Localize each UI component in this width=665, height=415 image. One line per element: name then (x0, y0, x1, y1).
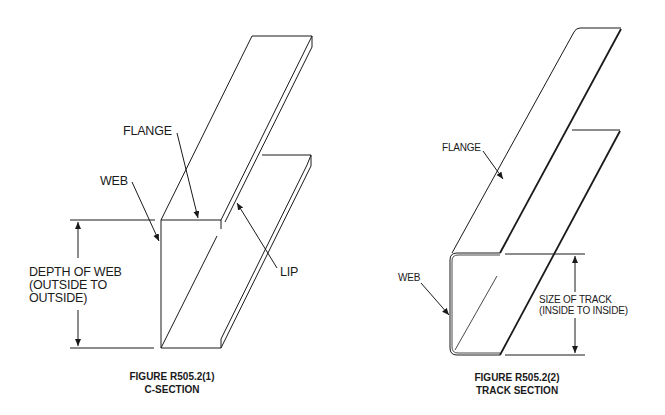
track-flange-label: FLANGE (442, 141, 481, 154)
c-lip-arrow (237, 203, 277, 268)
c-web-arrow (132, 182, 159, 241)
diagram-canvas: FLANGE WEB LIP DEPTH OF WEB (OUTSIDE TO … (0, 0, 665, 415)
track-section-caption-title: FIGURE R505.2(2) (457, 371, 577, 384)
diagram-drawing (0, 0, 665, 415)
c-leader-arrows (132, 133, 277, 268)
c-section-caption-title: FIGURE R505.2(1) (112, 370, 232, 383)
track-section-caption-subtitle: TRACK SECTION (457, 384, 577, 397)
c-flange-label: FLANGE (123, 125, 172, 138)
track-leader-arrows (421, 151, 503, 315)
c-lip-label: LIP (280, 266, 298, 279)
track-web-label: WEB (398, 271, 420, 284)
track-size-label-line2: (INSIDE TO INSIDE) (539, 304, 628, 317)
c-section-caption-subtitle: C-SECTION (112, 383, 232, 396)
c-web-label: WEB (100, 175, 128, 188)
c-flange-arrow (177, 133, 198, 218)
track-web-arrow (421, 283, 449, 315)
c-depth-label-line3: OUTSIDE) (29, 292, 87, 305)
track-flange-arrow (483, 151, 503, 179)
c-section-drawing (161, 36, 312, 348)
